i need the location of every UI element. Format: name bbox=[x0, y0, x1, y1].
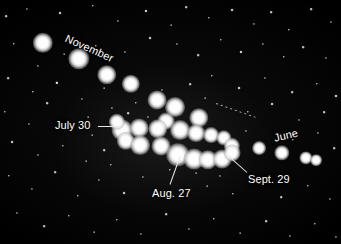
date-label-aug-27: Aug. 27 bbox=[152, 188, 191, 199]
date-label-sept-29: Sept. 29 bbox=[248, 174, 290, 185]
date-label-july-30: July 30 bbox=[55, 120, 91, 131]
sky-background bbox=[0, 0, 341, 244]
star-chart-image: NovemberJuly 30Aug. 27Sept. 29June bbox=[0, 0, 341, 244]
